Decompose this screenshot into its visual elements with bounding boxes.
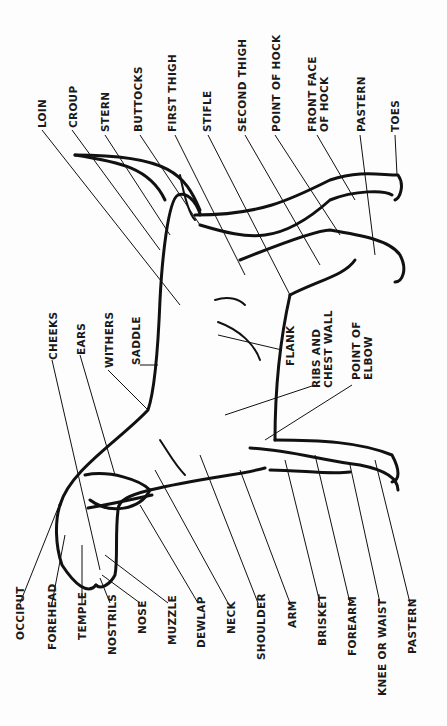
label-first-thigh: FIRST THIGH — [166, 54, 178, 132]
label-toes: TOES — [389, 100, 401, 132]
label-neck: NECK — [225, 601, 237, 634]
label-cheeks: CHEEKS — [47, 312, 59, 360]
dog-anatomy-diagram: OCCIPUT FOREHEAD TEMPLE NOSTRILS NOSE MU… — [0, 0, 447, 726]
label-stifle: STIFLE — [201, 91, 213, 132]
label-arm: ARM — [286, 600, 298, 628]
label-occiput: OCCIPUT — [14, 586, 26, 640]
label-stern: STERN — [99, 92, 111, 132]
label-ears: EARS — [75, 323, 87, 355]
label-temple: TEMPLE — [76, 592, 88, 640]
label-forearm: FOREARM — [346, 596, 358, 656]
label-nostrils: NOSTRILS — [106, 594, 118, 655]
label-buttocks: BUTTOCKS — [132, 66, 144, 132]
label-brisket: BRISKET — [316, 594, 328, 646]
label-nose: NOSE — [136, 600, 148, 634]
label-point-of-elbow: POINT OF ELBOW — [350, 321, 374, 380]
label-point-of-hock: POINT OF HOCK — [270, 35, 282, 132]
label-pastern-rear: PASTERN — [355, 76, 367, 132]
label-ribs-and-chest-wall: RIBS AND CHEST WALL — [310, 310, 334, 388]
label-knee-or-waist: KNEE OR WAIST — [376, 599, 388, 696]
label-withers: WITHERS — [103, 312, 115, 368]
label-muzzle: MUZZLE — [166, 595, 178, 645]
label-pastern-front: PASTERN — [406, 598, 418, 654]
label-loin: LOIN — [36, 99, 48, 128]
label-croup: CROUP — [67, 86, 79, 128]
label-forehead: FOREHEAD — [46, 583, 58, 650]
label-flank: FLANK — [284, 326, 296, 366]
label-saddle: SADDLE — [130, 316, 142, 365]
label-second-thigh: SECOND THIGH — [236, 39, 248, 132]
label-front-face-of-hock: FRONT FACE OF HOCK — [306, 56, 330, 132]
label-dewlap: DEWLAP — [195, 596, 207, 648]
label-shoulder: SHOULDER — [255, 593, 267, 660]
